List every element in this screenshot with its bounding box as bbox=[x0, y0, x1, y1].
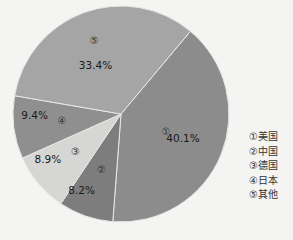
slice-percent-japan: 9.4% bbox=[21, 109, 48, 121]
legend-item-germany: ③德国 bbox=[249, 159, 278, 174]
legend-item-usa: ①美国 bbox=[249, 130, 278, 145]
legend: ①美国 ②中国 ③德国 ④日本 ⑤其他 bbox=[249, 130, 278, 203]
legend-item-japan: ④日本 bbox=[249, 174, 278, 189]
legend-marker: ③ bbox=[249, 160, 258, 171]
legend-marker: ① bbox=[249, 131, 258, 142]
legend-item-other: ⑤其他 bbox=[249, 188, 278, 203]
legend-label: 中国 bbox=[258, 146, 278, 157]
slice-marker-germany: ③ bbox=[71, 146, 80, 157]
slice-percent-usa: 40.1% bbox=[166, 132, 199, 144]
legend-marker: ⑤ bbox=[249, 189, 258, 200]
slice-marker-china: ② bbox=[97, 164, 106, 175]
legend-label: 德国 bbox=[258, 160, 278, 171]
legend-label: 其他 bbox=[258, 189, 278, 200]
legend-marker: ② bbox=[249, 146, 258, 157]
slice-percent-china: 8.2% bbox=[68, 184, 95, 196]
slice-percent-germany: 8.9% bbox=[34, 153, 61, 165]
slice-marker-japan: ④ bbox=[58, 115, 67, 126]
legend-label: 日本 bbox=[258, 175, 278, 186]
legend-item-china: ②中国 bbox=[249, 145, 278, 160]
legend-marker: ④ bbox=[249, 175, 258, 186]
slice-percent-other: 33.4% bbox=[79, 59, 112, 71]
slice-marker-other: ⑤ bbox=[90, 35, 99, 46]
legend-label: 美国 bbox=[258, 131, 278, 142]
